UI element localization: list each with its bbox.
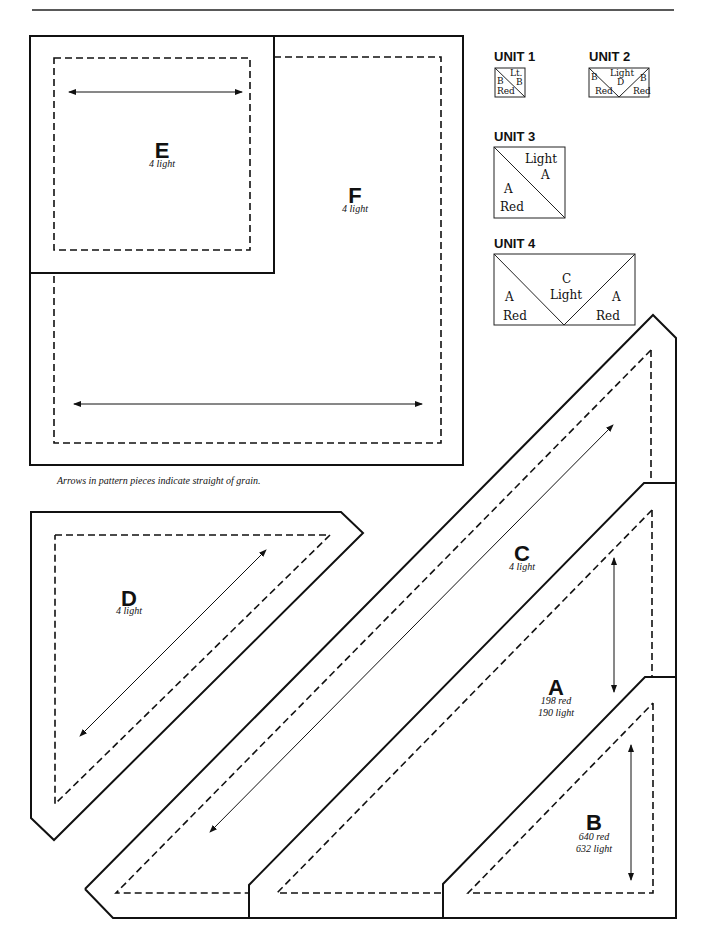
unit-3-label-left-letter: A (504, 183, 513, 195)
unit-4-label-left-letter: A (505, 291, 514, 303)
piece-a-quantity-red: 198 red (521, 695, 591, 707)
unit-2-label-right: B (640, 74, 647, 83)
unit-2-label-left: B (591, 73, 598, 82)
unit-3-label-bottom: Red (500, 201, 524, 213)
unit-4-title: UNIT 4 (494, 237, 535, 250)
unit-2-title: UNIT 2 (589, 50, 630, 63)
piece-d-shape (31, 512, 363, 840)
unit-1-label-right: B (516, 78, 523, 87)
piece-d-quantity: 4 light (99, 605, 159, 617)
unit-2-label-left-bottom: Red (595, 87, 613, 96)
unit-1-title: UNIT 1 (494, 50, 535, 63)
unit-3-label-top-letter: A (541, 169, 550, 181)
unit-4-label-right-bottom: Red (596, 310, 620, 322)
unit-4-label-center: Light (550, 289, 582, 301)
piece-b-quantity-light: 632 light (559, 843, 629, 855)
unit-4-label-right-letter: A (612, 291, 621, 303)
unit-3-label-top: Light (525, 153, 557, 165)
unit-1-label-bottom: Red (497, 87, 515, 96)
unit-1-label-left: B (497, 77, 504, 86)
piece-b-quantity-red: 640 red (559, 831, 629, 843)
piece-c-quantity: 4 light (492, 561, 552, 573)
grain-caption: Arrows in pattern pieces indicate straig… (57, 475, 261, 486)
pattern-drawing (0, 0, 706, 941)
unit-4-label-center-letter: C (562, 273, 571, 285)
piece-a-quantity-light: 190 light (521, 707, 591, 719)
piece-f-quantity: 4 light (325, 203, 385, 215)
unit-3-title: UNIT 3 (494, 130, 535, 143)
unit-4-label-left-bottom: Red (503, 310, 527, 322)
unit-2-label-center: D (617, 78, 624, 87)
piece-e-quantity: 4 light (132, 158, 192, 170)
unit-2-label-right-bottom: Red (633, 87, 651, 96)
